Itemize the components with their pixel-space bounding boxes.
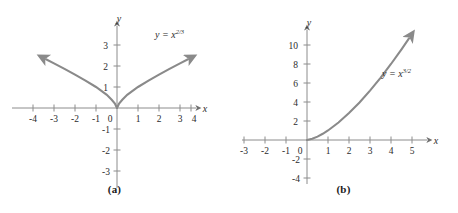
panel-a: -4 -3 -2 -1 1 2 3 4 0 3 2 1 -1 -2 -3 x y (0, 0, 229, 213)
y-tick-label: 8 (293, 60, 298, 70)
y-tick-label: 1 (103, 83, 108, 93)
x-tick-label: 3 (368, 146, 373, 156)
x-tick-label: -1 (92, 114, 100, 124)
x-tick-label: -3 (240, 146, 248, 156)
plot-a: -4 -3 -2 -1 1 2 3 4 0 3 2 1 -1 -2 -3 x y (0, 0, 229, 196)
y-tick-label: -4 (292, 174, 300, 184)
x-tick-label: -2 (71, 114, 79, 124)
y-tick-label: 6 (293, 79, 298, 89)
curve-b (307, 38, 409, 140)
panel-b: -3 -2 -1 1 2 3 4 5 0 10 8 6 4 2 -2 -4 x … (229, 0, 458, 213)
x-tick-label: 3 (178, 114, 183, 124)
x-axis-name: x (202, 103, 208, 114)
y-tick-label: 3 (103, 41, 108, 51)
x-tick-label: 5 (410, 146, 415, 156)
x-tick-label: 2 (157, 114, 162, 124)
y-tick-label: 10 (289, 41, 299, 51)
panel-caption-b: (b) (229, 183, 458, 195)
y-tick-label: -1 (102, 125, 110, 135)
curve-label-a: y = x2/3 (154, 28, 185, 40)
x-tick-label: 4 (389, 146, 394, 156)
y-tick-label: -2 (102, 146, 110, 156)
x-tick-label: 2 (347, 146, 352, 156)
y-tick-label: 2 (103, 62, 108, 72)
y-tick-label: -2 (292, 155, 300, 165)
x-tick-label: -3 (50, 114, 58, 124)
figure-container: -4 -3 -2 -1 1 2 3 4 0 3 2 1 -1 -2 -3 x y (0, 0, 458, 213)
x-tick-label: -4 (29, 114, 37, 124)
x-tick-label: 4 (192, 114, 197, 124)
x-tick-label: 1 (326, 146, 331, 156)
panel-caption-a: (a) (0, 183, 229, 195)
y-tick-label: 4 (293, 98, 298, 108)
plot-b: -3 -2 -1 1 2 3 4 5 0 10 8 6 4 2 -2 -4 x … (229, 0, 458, 196)
origin-label: 0 (108, 114, 113, 124)
x-axis-name: x (433, 135, 439, 146)
x-tick-label: -2 (261, 146, 269, 156)
y-axis-name: y (306, 17, 312, 28)
curve-right-branch (117, 59, 188, 108)
y-axis-name: y (116, 13, 122, 24)
curve-label-b: y = x3/2 (381, 67, 412, 79)
y-tick-label: 2 (293, 117, 298, 127)
y-tick-label: -3 (102, 167, 110, 177)
x-tick-label: -1 (282, 146, 290, 156)
x-tick-label: 1 (136, 114, 141, 124)
